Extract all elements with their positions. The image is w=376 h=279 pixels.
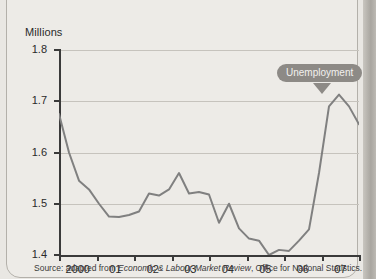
y-tick-label: 1.4 <box>17 248 47 260</box>
unemployment-annotation-label: Unemployment <box>286 67 353 78</box>
x-tick-mark <box>284 255 286 261</box>
x-tick-mark <box>172 255 174 261</box>
y-tick-mark <box>54 152 60 154</box>
x-tick-mark <box>209 255 211 261</box>
unemployment-annotation-pointer-icon <box>313 83 331 94</box>
x-tick-mark <box>59 255 61 261</box>
y-tick-label: 1.6 <box>17 146 47 158</box>
source-suffix: , Office for National Statistics. <box>251 263 362 273</box>
y-tick-mark <box>54 203 60 205</box>
source-prefix: Source: adapted from <box>34 263 118 273</box>
y-tick-label: 1.5 <box>17 197 47 209</box>
x-tick-mark <box>97 255 99 261</box>
x-tick-mark <box>322 255 324 261</box>
y-tick-label: 1.7 <box>17 94 47 106</box>
source-note: Source: adapted from Economic & Labour M… <box>34 263 362 273</box>
x-tick-mark <box>134 255 136 261</box>
y-tick-mark <box>54 49 60 51</box>
y-tick-label: 1.8 <box>17 43 47 55</box>
x-tick-mark <box>359 255 361 261</box>
unemployment-annotation-callout: Unemployment <box>277 64 362 82</box>
page-edge-shadow <box>363 0 376 279</box>
unemployment-line-chart: Millions Unemployment 1.41.51.61.71.8200… <box>7 12 357 255</box>
y-tick-mark <box>54 100 60 102</box>
y-axis-title: Millions <box>25 26 62 38</box>
x-tick-mark <box>247 255 249 261</box>
source-publication: Economic & Labour Market Review <box>118 263 251 273</box>
